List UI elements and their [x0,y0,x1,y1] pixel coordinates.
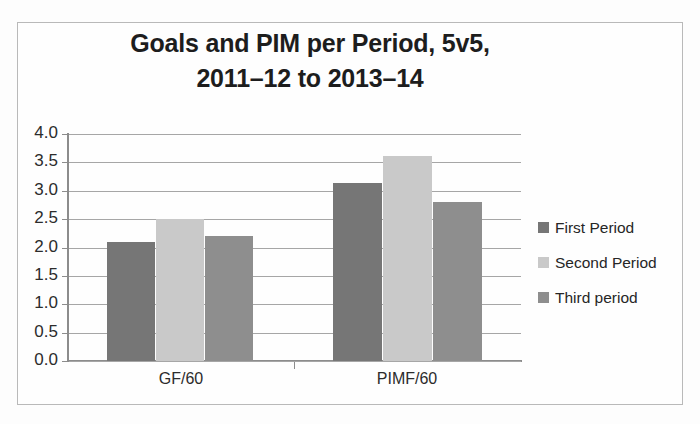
y-axis-tick-label: 4.0 [14,123,58,143]
y-axis-tick-label: 2.0 [14,237,58,257]
x-axis-category-tick [294,362,295,369]
y-axis-tick-label: 0.0 [14,350,58,370]
legend-label: First Period [555,219,634,237]
chart-title-line-2: 2011–12 to 2013–14 [60,61,560,96]
gridline [68,361,521,362]
legend-item-third-period: Third period [538,284,678,311]
y-axis-tick-labels: 4.03.53.02.52.01.51.00.50.0 [12,0,58,424]
bar-gf-60-third-period [205,236,253,361]
bar-pimf-60-third-period [433,202,482,361]
chart-title-line-1: Goals and PIM per Period, 5v5, [60,26,560,61]
y-axis-tick-mark [62,276,69,277]
y-axis-tick-label: 1.0 [14,293,58,313]
bar-pimf-60-second-period [383,156,432,361]
legend-item-first-period: First Period [538,214,678,241]
gridline [68,162,521,163]
bar-pimf-60-first-period [333,183,382,361]
x-axis-label-pimf-60: PIMF/60 [347,370,467,388]
legend-swatch-icon [538,257,549,268]
y-axis-tick-mark [62,304,69,305]
y-axis-tick-mark [62,162,69,163]
bar-gf-60-first-period [107,242,155,361]
x-axis-label-gf-60: GF/60 [121,370,241,388]
legend-swatch-icon [538,292,549,303]
y-axis-tick-label: 1.5 [14,265,58,285]
chart-title: Goals and PIM per Period, 5v5, 2011–12 t… [60,26,560,96]
legend-swatch-icon [538,222,549,233]
y-axis-tick-mark [62,191,69,192]
legend-item-second-period: Second Period [538,249,678,276]
y-axis-tick-label: 0.5 [14,322,58,342]
y-axis-tick-label: 3.5 [14,151,58,171]
plot-area [68,134,521,361]
legend-label: Third period [555,289,638,307]
y-axis-tick-label: 2.5 [14,208,58,228]
gridline [68,134,521,135]
bar-gf-60-second-period [156,219,204,361]
y-axis-tick-mark [62,361,69,362]
chart-figure: Goals and PIM per Period, 5v5, 2011–12 t… [0,0,700,424]
legend-label: Second Period [555,254,657,272]
y-axis-tick-mark [62,248,69,249]
y-axis-tick-mark [62,219,69,220]
gridline [68,191,521,192]
y-axis-tick-mark [62,134,69,135]
y-axis-tick-mark [62,333,69,334]
y-axis-tick-label: 3.0 [14,180,58,200]
chart-legend: First PeriodSecond PeriodThird period [538,214,678,319]
